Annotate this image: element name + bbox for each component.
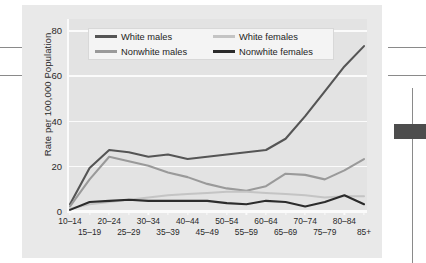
x-axis-tick-mark [128,211,129,215]
x-axis-tick-mark [89,211,90,215]
y-axis-tick-label: 40 [51,115,62,126]
x-axis-tick-label: 20–24 [98,216,121,226]
x-axis-tick-label: 75–79 [313,227,336,237]
y-axis-tick-label: 80 [51,25,62,36]
legend-item: Nonwhite females [209,47,337,57]
y-axis-tick-label: 20 [51,160,62,171]
gridline [67,211,367,213]
legend-swatch [95,50,117,53]
x-axis-tick-mark [324,211,325,215]
legend-item: White females [209,32,337,42]
x-axis-tick-mark [69,211,70,215]
series-line [70,157,364,207]
x-axis-tick-mark [207,211,208,215]
x-axis-tick-label: 85+ [357,227,371,237]
chart-legend: White malesWhite femalesNonwhite malesNo… [88,28,334,60]
legend-swatch [213,35,235,38]
legend-label: Nonwhite males [121,47,187,57]
y-axis-tick-label: 60 [51,70,62,81]
x-axis-tick-mark [363,211,364,215]
x-axis-tick-label: 35–39 [156,227,179,237]
x-axis-tick-label: 70–74 [294,216,317,226]
y-axis-title: Rate per 100,000 Population [42,30,53,160]
x-axis-tick-mark [265,211,266,215]
x-axis-tick-mark [285,211,286,215]
chart-figure: Rate per 100,000 Population 020406080 10… [22,5,382,258]
x-axis-tick-label: 55–59 [235,227,258,237]
series-line [70,46,364,204]
x-axis-tick-mark [167,211,168,215]
legend-label: Nonwhite females [239,47,313,57]
page-rule-right-top [388,47,426,48]
x-axis-tick-label: 25–29 [117,227,140,237]
legend-item: White males [91,32,209,42]
legend-label: White males [121,32,172,42]
x-axis-tick-label: 30–34 [137,216,160,226]
page-marker-block [394,124,426,139]
x-axis-tick-label: 80–84 [333,216,356,226]
legend-item: Nonwhite males [91,47,209,57]
legend-swatch [213,50,235,53]
x-axis-tick-mark [305,211,306,215]
x-axis-tick-label: 45–49 [196,227,219,237]
x-axis-tick-label: 40–44 [176,216,199,226]
x-axis-tick-label: 50–54 [215,216,238,226]
x-axis-tick-mark [246,211,247,215]
x-axis-tick-label: 15–19 [78,227,101,237]
page-rule-right-bottom [388,75,426,76]
x-axis-tick-mark [109,211,110,215]
x-axis-tick-label: 10–14 [58,216,81,226]
y-axis-tick-label: 0 [57,206,62,217]
page-rule-vertical [412,88,413,263]
x-axis-tick-mark [344,211,345,215]
x-axis-tick-mark [187,211,188,215]
legend-label: White females [239,32,298,42]
x-axis-tick-mark [226,211,227,215]
legend-swatch [95,35,117,38]
x-axis-tick-label: 60–64 [254,216,277,226]
x-axis-tick-label: 65–69 [274,227,297,237]
x-axis-tick-mark [148,211,149,215]
